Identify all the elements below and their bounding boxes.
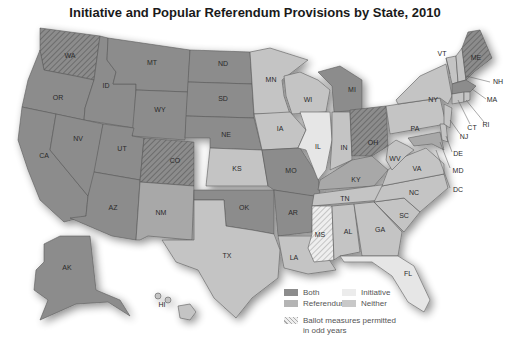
label-UT: UT bbox=[117, 145, 127, 152]
label-MA: MA bbox=[487, 96, 498, 103]
label-NV: NV bbox=[73, 135, 83, 142]
state-HI[interactable] bbox=[178, 304, 196, 320]
label-ND: ND bbox=[218, 60, 228, 67]
state-WI[interactable] bbox=[284, 72, 330, 114]
label-NC: NC bbox=[409, 189, 419, 196]
state-HI-islands bbox=[165, 297, 171, 303]
label-CT: CT bbox=[467, 124, 477, 131]
label-NJ: NJ bbox=[460, 133, 469, 140]
legend-item-referendum: Referendum bbox=[284, 299, 347, 308]
label-NH: NH bbox=[493, 78, 503, 85]
state-ND[interactable] bbox=[188, 50, 252, 84]
label-SC: SC bbox=[399, 212, 409, 219]
label-AL: AL bbox=[344, 228, 353, 235]
legend-swatch-hatch bbox=[284, 317, 298, 324]
label-KS: KS bbox=[232, 165, 242, 172]
label-OK: OK bbox=[239, 204, 249, 211]
state-AK[interactable] bbox=[34, 236, 130, 320]
label-WI: WI bbox=[304, 96, 313, 103]
state-CO[interactable] bbox=[140, 138, 194, 186]
legend-label-odd-years-2: in odd years bbox=[303, 326, 347, 335]
label-WY: WY bbox=[154, 106, 166, 113]
label-CA: CA bbox=[39, 152, 49, 159]
legend-swatch-both bbox=[284, 289, 298, 296]
state-NY[interactable] bbox=[396, 64, 452, 104]
legend-swatch-referendum bbox=[284, 300, 298, 307]
label-PA: PA bbox=[411, 125, 420, 132]
label-ME: ME bbox=[471, 54, 482, 61]
label-DE: DE bbox=[453, 150, 463, 157]
label-MD: MD bbox=[453, 167, 464, 174]
label-TN: TN bbox=[340, 195, 349, 202]
label-MS: MS bbox=[315, 231, 326, 238]
label-KY: KY bbox=[351, 176, 361, 183]
label-IL: IL bbox=[315, 143, 321, 150]
label-TX: TX bbox=[223, 252, 232, 259]
legend-label-initiative: Initiative bbox=[361, 288, 390, 297]
state-CT[interactable] bbox=[452, 92, 464, 104]
label-AR: AR bbox=[288, 209, 298, 216]
label-HI: HI bbox=[159, 301, 166, 308]
state-OH[interactable] bbox=[350, 106, 388, 156]
label-FL: FL bbox=[404, 270, 412, 277]
state-RI[interactable] bbox=[464, 92, 470, 102]
legend-label-neither: Neither bbox=[361, 299, 387, 308]
label-WA: WA bbox=[64, 52, 75, 59]
label-OH: OH bbox=[368, 139, 379, 146]
state-WY[interactable] bbox=[132, 90, 188, 140]
label-RI: RI bbox=[483, 121, 490, 128]
label-ID: ID bbox=[103, 82, 110, 89]
state-MD[interactable] bbox=[408, 132, 444, 150]
label-NY: NY bbox=[428, 96, 438, 103]
label-MO: MO bbox=[285, 167, 297, 174]
label-LA: LA bbox=[290, 254, 299, 261]
state-KY[interactable] bbox=[318, 156, 388, 190]
label-AK: AK bbox=[62, 264, 72, 271]
label-MT: MT bbox=[147, 59, 158, 66]
legend-swatch-neither bbox=[342, 300, 356, 307]
label-CO: CO bbox=[170, 157, 181, 164]
legend-swatch-initiative bbox=[342, 289, 356, 296]
legend-label-referendum: Referendum bbox=[303, 299, 347, 308]
label-NM: NM bbox=[156, 209, 167, 216]
label-VA: VA bbox=[413, 165, 422, 172]
label-AZ: AZ bbox=[109, 204, 119, 211]
legend-item-initiative: Initiative bbox=[342, 288, 390, 297]
state-NJ[interactable] bbox=[444, 104, 452, 128]
label-DC: DC bbox=[453, 186, 463, 193]
label-MN: MN bbox=[266, 76, 277, 83]
state-HI-islands bbox=[155, 293, 161, 299]
label-NE: NE bbox=[221, 131, 231, 138]
state-IN[interactable] bbox=[330, 112, 352, 170]
label-WV: WV bbox=[389, 155, 401, 162]
legend-item-odd-years: Ballot measures permitted in odd years bbox=[284, 316, 396, 336]
legend-label-both: Both bbox=[303, 288, 319, 297]
legend-item-both: Both bbox=[284, 288, 319, 297]
label-IN: IN bbox=[341, 144, 348, 151]
label-OR: OR bbox=[53, 94, 64, 101]
label-IA: IA bbox=[277, 125, 284, 132]
label-GA: GA bbox=[375, 226, 385, 233]
legend-label-odd-years-1: Ballot measures permitted bbox=[303, 316, 396, 325]
label-SD: SD bbox=[218, 95, 228, 102]
us-map: WA OR CA ID NV MT WY UT AZ CO NM ND SD N… bbox=[0, 0, 510, 344]
legend-item-neither: Neither bbox=[342, 299, 387, 308]
label-VT: VT bbox=[438, 50, 448, 57]
label-MI: MI bbox=[348, 86, 356, 93]
